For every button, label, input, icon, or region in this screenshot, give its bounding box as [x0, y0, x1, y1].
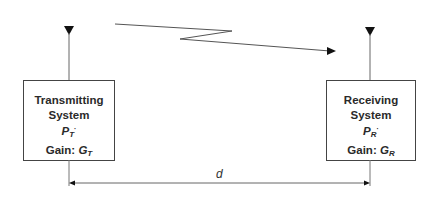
- tx-antenna-icon: [64, 26, 74, 80]
- signal-zigzag-arrow-icon: [115, 24, 336, 55]
- tx-power: PT·: [23, 122, 115, 143]
- receiver-label: Receiving System PR· Gain: GR: [326, 93, 416, 161]
- tx-line2: System: [23, 108, 115, 123]
- rx-power: PR·: [326, 122, 416, 143]
- rx-antenna-icon: [365, 27, 375, 81]
- transmitter-label: Transmitting System PT· Gain: GT: [23, 93, 115, 161]
- tx-gain: Gain: GT: [23, 143, 115, 162]
- rx-line2: System: [326, 108, 416, 123]
- rx-gain: Gain: GR: [326, 143, 416, 162]
- tx-line1: Transmitting: [23, 93, 115, 108]
- rx-line1: Receiving: [326, 93, 416, 108]
- distance-label: d: [216, 167, 223, 181]
- distance-dimension-line: [69, 181, 370, 186]
